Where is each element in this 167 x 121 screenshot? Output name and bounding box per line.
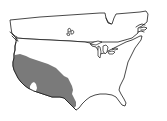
canada-outline: [10, 11, 148, 42]
us-map: [0, 0, 167, 121]
map-container: [0, 0, 167, 121]
